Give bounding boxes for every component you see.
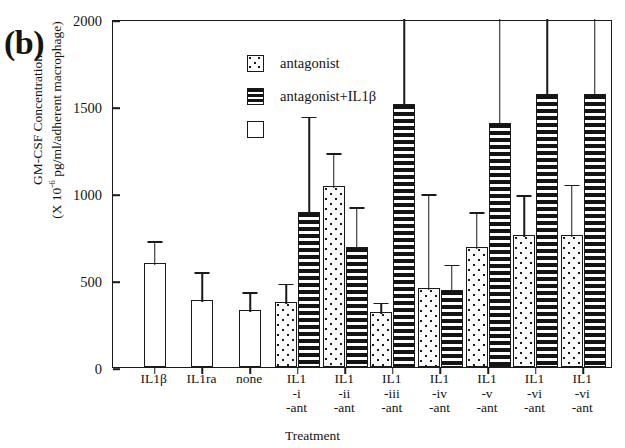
- y-tick-mark: [113, 107, 120, 109]
- y-tick-mark: [113, 368, 120, 370]
- bar-striped: [441, 290, 463, 367]
- x-tick-label-line: IL1: [334, 372, 355, 387]
- bar-striped: [489, 123, 511, 367]
- x-tick-label-line: IL1: [524, 372, 545, 387]
- error-bar: [428, 194, 430, 290]
- error-bar-cap: [147, 241, 162, 243]
- x-tick-label-line: IL1: [429, 372, 450, 387]
- x-tick-label: IL1-v-ant: [477, 372, 498, 416]
- error-bar: [523, 195, 525, 237]
- bar-dotted: [418, 288, 440, 367]
- figure-panel-b: (b) GM-CSF Concentration (X 10-6 pg/ml/a…: [0, 0, 625, 448]
- error-bar: [356, 207, 358, 249]
- x-tick-label-line: -ant: [334, 401, 355, 416]
- bar-striped: [393, 104, 415, 367]
- x-tick-label: IL1-i-ant: [286, 372, 307, 416]
- y-tick-label: 500: [32, 274, 113, 291]
- x-tick-label-line: IL1ra: [186, 372, 216, 387]
- bar-dotted: [513, 235, 535, 367]
- bar-striped: [298, 212, 320, 367]
- x-tick-label: IL1β: [141, 372, 167, 387]
- legend-swatch-dotted: [247, 55, 264, 72]
- x-tick-label-line: -iii: [381, 387, 402, 402]
- error-bar: [249, 292, 251, 311]
- x-tick-label: IL1-iv-ant: [429, 372, 450, 416]
- legend-item-striped: antagonist+IL1β: [247, 82, 376, 110]
- legend: antagonistantagonist+IL1β: [247, 49, 376, 148]
- bar-open: [144, 263, 166, 367]
- x-tick-label-line: -ant: [524, 401, 545, 416]
- bar-striped: [536, 94, 558, 367]
- legend-label: antagonist: [280, 55, 340, 72]
- bar-dotted: [323, 186, 345, 367]
- plot-area: 0500100015002000 antagonistantagonist+IL…: [112, 20, 612, 368]
- y-axis-title-line1: GM-CSF Concentration: [30, 0, 45, 240]
- bar-open: [239, 310, 261, 367]
- x-tick-label-line: IL1: [286, 372, 307, 387]
- y-tick-label: 1500: [32, 100, 113, 117]
- error-bar: [154, 241, 156, 265]
- y-tick-label: 0: [32, 361, 113, 378]
- bar-dotted: [561, 235, 583, 367]
- x-tick-label: IL1ra: [186, 372, 216, 387]
- error-bar-cap: [326, 153, 341, 155]
- x-tick-label: none: [236, 372, 262, 387]
- x-tick-label-line: -vi: [572, 387, 593, 402]
- y-tick-label: 1000: [32, 187, 113, 204]
- error-bar-cap: [243, 292, 258, 294]
- y-tick-mark: [113, 20, 120, 22]
- x-tick-label-line: IL1β: [141, 372, 167, 387]
- error-bar-cap: [469, 212, 484, 214]
- bar-dotted: [370, 312, 392, 367]
- y-tick-mark: [113, 194, 120, 196]
- y-axis-title: GM-CSF Concentration (X 10-6 pg/ml/adher…: [30, 0, 56, 240]
- error-bar-cap: [279, 284, 294, 286]
- x-tick-label-line: IL1: [572, 372, 593, 387]
- x-tick-label-line: -i: [286, 387, 307, 402]
- x-tick-label-line: -ii: [334, 387, 355, 402]
- bar-striped: [346, 247, 368, 367]
- legend-label: antagonist+IL1β: [280, 88, 376, 105]
- error-bar: [381, 303, 383, 314]
- x-tick-label-line: IL1: [477, 372, 498, 387]
- legend-item-dotted: antagonist: [247, 49, 376, 77]
- y-axis-title-line2: (X 10-6 pg/ml/adherent macrophage): [45, 0, 64, 240]
- x-tick-label: IL1-vi-ant: [524, 372, 545, 416]
- error-bar: [202, 272, 204, 302]
- error-bar: [285, 284, 287, 304]
- x-tick-label-line: -v: [477, 387, 498, 402]
- error-bar-cap: [444, 265, 459, 267]
- y-tick-label: 2000: [32, 13, 113, 30]
- x-tick-label-line: -ant: [286, 401, 307, 416]
- legend-swatch-open: [247, 121, 264, 138]
- x-tick-label-line: -ant: [429, 401, 450, 416]
- x-tick-label-line: -ant: [572, 401, 593, 416]
- error-bar: [404, 19, 406, 106]
- bar-open: [191, 300, 213, 367]
- x-tick-label-line: IL1: [381, 372, 402, 387]
- error-bar: [546, 19, 548, 96]
- x-tick-label-line: -ant: [381, 401, 402, 416]
- error-bar-cap: [195, 272, 210, 274]
- x-tick-label-line: none: [236, 372, 262, 387]
- error-bar-cap: [564, 185, 579, 187]
- error-bar: [594, 19, 596, 96]
- x-axis-title: Treatment: [0, 428, 625, 444]
- error-bar: [499, 19, 501, 125]
- error-bar: [333, 153, 335, 188]
- legend-item-open: [247, 115, 376, 143]
- x-tick-label: IL1-ii-ant: [334, 372, 355, 416]
- bar-dotted: [275, 302, 297, 367]
- error-bar: [451, 265, 453, 293]
- bar-striped: [584, 94, 606, 367]
- error-bar-cap: [421, 194, 436, 196]
- x-tick-label-line: -iv: [429, 387, 450, 402]
- x-tick-label: IL1-iii-ant: [381, 372, 402, 416]
- error-bar: [571, 185, 573, 237]
- error-bar-cap: [374, 303, 389, 305]
- bar-dotted: [466, 247, 488, 367]
- error-bar-cap: [349, 207, 364, 209]
- x-tick-label: IL1-vi-ant: [572, 372, 593, 416]
- legend-swatch-striped: [247, 88, 264, 105]
- y-tick-mark: [113, 281, 120, 283]
